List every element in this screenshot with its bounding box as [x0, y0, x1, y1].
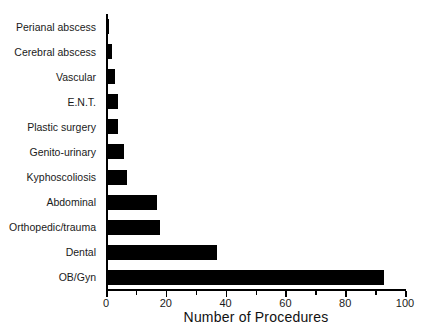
- x-axis-tick-label: 80: [325, 297, 365, 309]
- x-axis-minor-tick: [256, 291, 258, 295]
- y-axis-tick-label: OB/Gyn: [0, 271, 96, 283]
- bar-row: [106, 14, 405, 39]
- x-axis-tick-label: 100: [385, 297, 425, 309]
- bar-row: [106, 64, 405, 89]
- y-axis-tick-label: Vascular: [0, 71, 96, 83]
- y-axis-tick-label: Abdominal: [0, 196, 96, 208]
- x-axis-tick-label: 20: [146, 297, 186, 309]
- bar-row: [106, 39, 405, 64]
- x-axis-tick-label: 60: [265, 297, 305, 309]
- bar: [106, 144, 124, 159]
- bar: [106, 270, 384, 285]
- y-axis-tick-label: Cerebral abscess: [0, 46, 96, 58]
- bar-row: [106, 114, 405, 139]
- y-axis-tick-label: Plastic surgery: [0, 121, 96, 133]
- bar: [106, 195, 157, 210]
- y-axis-tick-label: Perianal abscess: [0, 21, 96, 33]
- bar: [106, 94, 118, 109]
- bar: [106, 19, 109, 34]
- bar: [106, 44, 112, 59]
- y-axis-tick-label: E.N.T.: [0, 96, 96, 108]
- x-axis-minor-tick: [375, 291, 377, 295]
- x-axis-minor-tick: [136, 291, 138, 295]
- bar-row: [106, 89, 405, 114]
- bar: [106, 220, 160, 235]
- bar-row: [106, 240, 405, 265]
- bar-row: [106, 265, 405, 290]
- x-axis-tick-label: 40: [206, 297, 246, 309]
- bar: [106, 245, 217, 260]
- bar-row: [106, 190, 405, 215]
- y-axis-tick-label: Genito-urinary: [0, 146, 96, 158]
- bar-row: [106, 165, 405, 190]
- bar-row: [106, 139, 405, 164]
- bar-row: [106, 215, 405, 240]
- x-axis-minor-tick: [196, 291, 198, 295]
- bar: [106, 119, 118, 134]
- y-axis-tick-label: Kyphoscoliosis: [0, 171, 96, 183]
- y-axis-tick-label: Dental: [0, 246, 96, 258]
- bar-chart-figure: Number of Procedures Perianal abscessCer…: [0, 0, 437, 331]
- x-axis-minor-tick: [315, 291, 317, 295]
- x-axis-tick-label: 0: [86, 297, 126, 309]
- x-axis-title: Number of Procedures: [106, 309, 406, 325]
- plot-area: [106, 14, 405, 290]
- bar: [106, 170, 127, 185]
- y-axis-tick-label: Orthopedic/trauma: [0, 221, 96, 233]
- bar: [106, 69, 115, 84]
